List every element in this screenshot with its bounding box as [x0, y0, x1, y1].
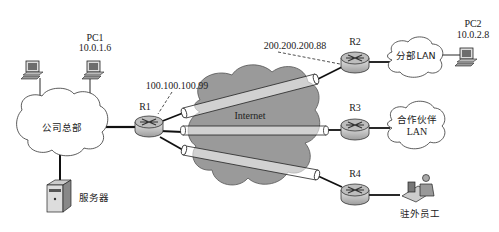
r1-ip: 100.100.100.99: [142, 80, 212, 91]
partner-lan-label-line1: 合作伙伴: [392, 114, 442, 125]
pc2-icon: [455, 48, 477, 66]
pc1-ip: 10.0.1.6: [75, 42, 115, 53]
r2-label: R2: [345, 36, 365, 47]
hq-label: 公司总部: [32, 122, 92, 133]
partner-lan-label-line2: LAN: [392, 126, 442, 137]
r4-label: R4: [345, 168, 365, 179]
branch-lan-label: 分部LAN: [390, 50, 442, 61]
r1-label: R1: [135, 101, 155, 112]
router-r2-icon: [341, 52, 369, 73]
remote-worker-icon: [402, 175, 434, 203]
internet-label: Internet: [225, 110, 275, 121]
router-r1-icon: [135, 116, 163, 137]
r2-ip: 200.200.200.88: [255, 40, 335, 51]
router-r3-icon: [341, 119, 369, 140]
partner-lan-cloud: [388, 101, 445, 149]
router-r4-icon: [341, 184, 369, 205]
network-diagram: PC1 10.0.1.6 公司总部 服务器 R1 100.100.100.99 …: [0, 0, 499, 232]
r3-label: R3: [345, 102, 365, 113]
pc2-name: PC2: [450, 18, 496, 29]
pc1-icon: [82, 61, 104, 79]
pc2-ip: 10.0.2.8: [450, 29, 496, 40]
pc-icon: [21, 61, 43, 79]
server-icon: [47, 180, 71, 212]
server-label: 服务器: [74, 192, 114, 203]
remote-worker-label: 驻外员工: [395, 208, 445, 219]
